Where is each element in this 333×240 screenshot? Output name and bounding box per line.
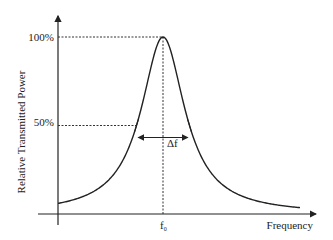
center-frequency-label: f0 xyxy=(160,219,167,232)
center-frequency-subscript: 0 xyxy=(164,226,167,232)
resonance-diagram: 100% 50% Relative Transmitted Power Freq… xyxy=(0,0,333,240)
resonance-curve xyxy=(58,37,300,208)
bandwidth-label: Δf xyxy=(167,137,178,149)
x-axis-label: Frequency xyxy=(267,219,314,231)
half-power-tangent-right xyxy=(187,119,191,132)
y-axis-label: Relative Transmitted Power xyxy=(15,70,27,193)
y-tick-100: 100% xyxy=(28,31,54,43)
y-tick-50: 50% xyxy=(34,116,54,128)
